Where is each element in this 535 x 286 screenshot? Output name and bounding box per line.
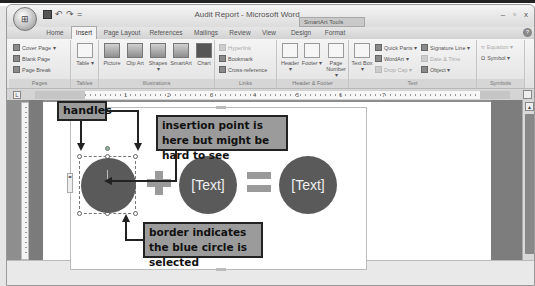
omega-icon: Ω (481, 55, 485, 61)
group-pages: Cover Page ▾ Blank Page Page Break Pages (9, 40, 71, 88)
picture-button[interactable]: Picture (101, 43, 123, 66)
smartart-icon (173, 43, 189, 58)
group-label-header-footer: Header & Footer (277, 79, 348, 88)
text-box-icon (354, 43, 370, 58)
window-controls: – ▫ x (501, 10, 528, 19)
text-box-button[interactable]: Text Box ▾ (351, 43, 373, 72)
smartart-tools-label: SmartArt Tools (299, 17, 365, 27)
drop-cap-button[interactable]: Drop Cap ▾ (375, 66, 412, 73)
tab-selector[interactable]: L (13, 91, 21, 99)
tab-view[interactable]: View (257, 27, 281, 39)
tab-references[interactable]: References (146, 27, 186, 39)
ruler-row: L 1 2 3 4 5 6 7 (7, 90, 535, 100)
shapes-button[interactable]: Shapes ▾ (147, 43, 169, 72)
circle-shape-3[interactable]: [Text] (279, 156, 337, 214)
smartart-bottom-handle[interactable] (216, 268, 226, 271)
screenshot-frame: ↶ ↷ = Audit Report - Microsoft Word Smar… (0, 0, 535, 286)
group-tables: Table ▾ Tables (71, 40, 99, 88)
table-button[interactable]: Table ▾ (74, 43, 96, 66)
chart-button[interactable]: Chart (193, 43, 215, 66)
group-label-illustrations: Illustrations (99, 79, 214, 88)
ribbon-tabs: Home Insert Page Layout References Maili… (7, 27, 535, 39)
object-icon (421, 66, 428, 73)
callout-border: border indicates the blue circle is sele… (143, 222, 263, 258)
text-pane-toggle[interactable]: ◂▸ (67, 173, 73, 193)
symbol-button[interactable]: ΩSymbol ▾ (481, 55, 510, 61)
save-icon[interactable] (43, 10, 52, 19)
table-icon (77, 43, 93, 58)
resize-handle-sw[interactable] (77, 211, 82, 216)
smartart-top-handle[interactable] (216, 106, 226, 109)
ribbon: Cover Page ▾ Blank Page Page Break Pages… (7, 39, 535, 89)
clip-art-button[interactable]: Clip Art (124, 43, 146, 66)
footer-icon (304, 43, 320, 58)
group-label-links: Links (215, 79, 276, 88)
quick-parts-button[interactable]: Quick Parts ▾ (375, 44, 417, 51)
shapes-icon (150, 43, 166, 58)
object-button[interactable]: Object ▾ (421, 66, 450, 73)
resize-handle-nw[interactable] (77, 154, 82, 159)
rotation-handle[interactable] (105, 146, 110, 151)
group-header-footer: Header ▾ Footer ▾ Page Number ▾ Header &… (277, 40, 349, 88)
maximize-button[interactable]: ▫ (513, 10, 516, 19)
vertical-scrollbar[interactable]: ▲ (522, 100, 535, 260)
wordart-button[interactable]: WordArt ▾ (375, 55, 409, 62)
header-button[interactable]: Header ▾ (279, 43, 301, 72)
scroll-thumb[interactable] (525, 114, 534, 254)
tab-design[interactable]: Design (286, 27, 316, 39)
circle-shape-2[interactable]: [Text] (179, 156, 237, 214)
page-number-icon (328, 43, 344, 58)
blank-page-icon (13, 55, 20, 62)
bookmark-icon (219, 55, 226, 62)
resize-handle-se[interactable] (133, 211, 138, 216)
tab-review[interactable]: Review (225, 27, 255, 39)
tab-mailings[interactable]: Mailings (190, 27, 222, 39)
cross-reference-button[interactable]: Cross-reference (219, 66, 267, 73)
quick-access-toolbar: ↶ ↷ = (43, 9, 82, 19)
tab-page-layout[interactable]: Page Layout (100, 27, 144, 39)
cover-page-button[interactable]: Cover Page ▾ (13, 44, 56, 51)
arrow-down-icon (134, 143, 142, 151)
footer-button[interactable]: Footer ▾ (301, 43, 323, 66)
group-illustrations: Picture Clip Art Shapes ▾ SmartArt Chart… (99, 40, 215, 88)
cover-page-icon (13, 44, 20, 51)
arrow-down-icon (77, 143, 85, 151)
smartart-button[interactable]: SmartArt (170, 43, 192, 66)
scroll-up-button[interactable]: ▲ (525, 102, 534, 111)
blank-page-button[interactable]: Blank Page (13, 55, 50, 62)
clip-art-icon (127, 43, 143, 58)
arrow-left-icon (104, 177, 112, 185)
equation-button[interactable]: πEquation ▾ (481, 44, 513, 50)
signature-line-icon (421, 44, 428, 51)
bookmark-button[interactable]: Bookmark (219, 55, 253, 62)
group-label-pages: Pages (9, 79, 70, 88)
page-number-button[interactable]: Page Number ▾ (324, 43, 348, 78)
tab-insert[interactable]: Insert (71, 26, 97, 39)
undo-icon[interactable]: ↶ (55, 9, 63, 19)
date-time-button[interactable]: Date & Time (421, 55, 460, 62)
hyperlink-button[interactable]: Hyperlink (219, 44, 251, 51)
tab-format[interactable]: Format (320, 27, 350, 39)
group-symbols: πEquation ▾ ΩSymbol ▾ Symbols (477, 40, 525, 88)
office-button[interactable]: ⊞ (13, 7, 37, 31)
view-ruler-button[interactable] (523, 90, 532, 99)
circle-shape-1[interactable] (81, 158, 136, 213)
group-text: Text Box ▾ Quick Parts ▾ WordArt ▾ Drop … (349, 40, 477, 88)
page-break-button[interactable]: Page Break (13, 66, 51, 73)
resize-handle-ne[interactable] (133, 154, 138, 159)
equals-icon-bar (247, 185, 271, 192)
customize-qat-icon[interactable]: = (77, 9, 82, 19)
chart-icon (196, 43, 212, 58)
callout-insertion-point: insertion point is here but might be har… (156, 115, 288, 151)
vertical-ruler[interactable] (21, 102, 29, 260)
group-label-symbols: Symbols (477, 79, 524, 88)
tab-home[interactable]: Home (41, 27, 69, 39)
help-icon[interactable]: ? (523, 28, 532, 37)
close-button[interactable]: x (524, 10, 528, 19)
signature-line-button[interactable]: Signature Line ▾ (421, 44, 470, 51)
redo-icon[interactable]: ↷ (66, 9, 74, 19)
minimize-button[interactable]: – (501, 10, 505, 19)
horizontal-ruler[interactable]: 1 2 3 4 5 6 7 (35, 91, 510, 99)
drop-cap-icon (375, 66, 382, 73)
callout-handles: handles (57, 101, 107, 121)
